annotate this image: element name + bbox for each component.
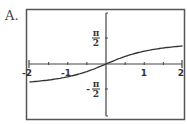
- svg-text:-: -: [86, 84, 90, 94]
- x-tick-label: -1: [61, 68, 71, 78]
- y-tick-label-pi-half: π 2: [92, 28, 100, 48]
- arctan-plot: -2 -1 1 2 π 2 - π 2: [0, 0, 187, 124]
- svg-text:π: π: [93, 28, 100, 38]
- svg-text:π: π: [93, 79, 100, 89]
- x-tick-label: 2: [178, 68, 184, 78]
- y-tick-label-neg-pi-half: - π 2: [86, 79, 100, 99]
- x-tick-label: -2: [22, 68, 32, 78]
- svg-text:2: 2: [93, 38, 99, 48]
- x-tick-label: 1: [141, 68, 147, 78]
- svg-text:2: 2: [93, 89, 99, 99]
